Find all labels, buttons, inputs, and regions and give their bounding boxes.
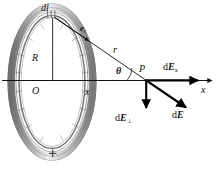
label-x-distance: x — [85, 87, 89, 97]
label-dEx-E: E — [168, 61, 175, 72]
label-dEx-subscript: x — [175, 66, 178, 73]
label-e-r-subscript: r — [84, 28, 86, 34]
label-dl: dl — [41, 3, 49, 13]
label-R: R — [32, 53, 38, 63]
label-dE-E: E — [177, 109, 184, 120]
label-x-axis: x — [201, 85, 205, 95]
label-dE-perp: dE⊥ — [115, 113, 132, 123]
vector-dE — [146, 80, 186, 107]
label-e-r: er — [80, 24, 86, 33]
figure-canvas: dl er r R O x θ P dEx x dE⊥ dE — [0, 0, 220, 174]
label-dE: dE — [172, 110, 184, 120]
label-dEperp-E: E — [120, 112, 127, 123]
label-P: P — [139, 64, 145, 74]
label-O: O — [32, 86, 39, 96]
label-r: r — [113, 45, 117, 55]
ring-hole — [21, 18, 83, 147]
label-theta: θ — [116, 66, 121, 76]
label-dEperp-subscript: ⊥ — [127, 117, 132, 124]
label-dEx: dEx — [163, 62, 178, 72]
